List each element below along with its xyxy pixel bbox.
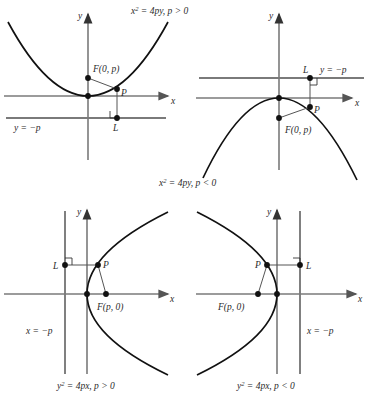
foot-point-l-bottom-right — [297, 262, 303, 268]
focus-point-top-right — [276, 115, 282, 121]
parabola-figure-sheet: F(0, p) P L y = −p x y x2 = 4py, p > 0 L… — [0, 0, 371, 396]
focus-point-top-left — [85, 75, 91, 81]
point-label-top-left: P — [120, 88, 127, 98]
point-p-bottom-left — [95, 262, 101, 268]
directrix-label-top-left: y = −p — [13, 123, 41, 133]
foot-label-top-right: L — [302, 65, 308, 75]
focus-point-bottom-left — [103, 291, 109, 297]
focus-point-bottom-right — [255, 291, 261, 297]
foot-label-bottom-left: L — [52, 261, 58, 271]
parabola-diagrams-svg: F(0, p) P L y = −p x y x2 = 4py, p > 0 L… — [0, 0, 371, 396]
focus-label-bottom-left: F(p, 0) — [96, 302, 123, 313]
caption-rest-top-left: = 4py, p > 0 — [138, 6, 188, 16]
point-label-bottom-right: P — [254, 260, 261, 270]
directrix-label-bottom-right: x = −p — [306, 326, 334, 336]
vertex-point-top-left — [85, 93, 91, 99]
x-axis-label-top-left: x — [170, 96, 176, 106]
caption-rest-bottom-right: = 4px, p < 0 — [244, 381, 295, 391]
foot-label-top-left: L — [112, 123, 118, 133]
point-p-top-right — [307, 104, 313, 110]
vertex-point-top-right — [276, 95, 282, 101]
focus-label-top-left: F(0, p) — [92, 64, 119, 75]
caption-rest-top-right: = 4py, p < 0 — [166, 178, 216, 188]
point-label-bottom-left: P — [102, 260, 109, 270]
foot-point-l-bottom-left — [62, 262, 68, 268]
caption-top-left: x2 = 4py, p > 0 — [130, 5, 188, 17]
x-axis-label-bottom-right: x — [357, 294, 363, 304]
focus-label-bottom-right: F(p, 0) — [217, 302, 244, 313]
directrix-label-bottom-left: x = −p — [25, 326, 53, 336]
foot-point-l-top-left — [114, 115, 120, 121]
focus-label-top-right: F(0, p) — [284, 125, 311, 136]
x-axis-label-top-right: x — [354, 98, 360, 108]
y-axis-label-bottom-right: y — [266, 207, 272, 217]
foot-point-l-top-right — [307, 75, 313, 81]
vertex-point-bottom-left — [84, 291, 90, 297]
foot-label-bottom-right: L — [305, 261, 311, 271]
y-axis-label-top-left: y — [77, 11, 83, 21]
point-p-bottom-right — [264, 262, 270, 268]
x-axis-label-bottom-left: x — [169, 294, 175, 304]
y-axis-label-bottom-left: y — [76, 207, 82, 217]
page-background — [0, 0, 371, 396]
vertex-point-bottom-right — [274, 291, 280, 297]
caption-rest-bottom-left: = 4px, p > 0 — [64, 381, 115, 391]
point-p-top-left — [114, 86, 120, 92]
caption-bottom-left: y2 = 4px, p > 0 — [56, 380, 115, 392]
point-label-top-right: P — [313, 105, 320, 115]
caption-bottom-right: y2 = 4px, p < 0 — [236, 380, 295, 392]
y-axis-label-top-right: y — [268, 11, 274, 21]
caption-top-right: x2 = 4py, p < 0 — [158, 177, 216, 189]
directrix-label-top-right: y = −p — [319, 65, 347, 75]
